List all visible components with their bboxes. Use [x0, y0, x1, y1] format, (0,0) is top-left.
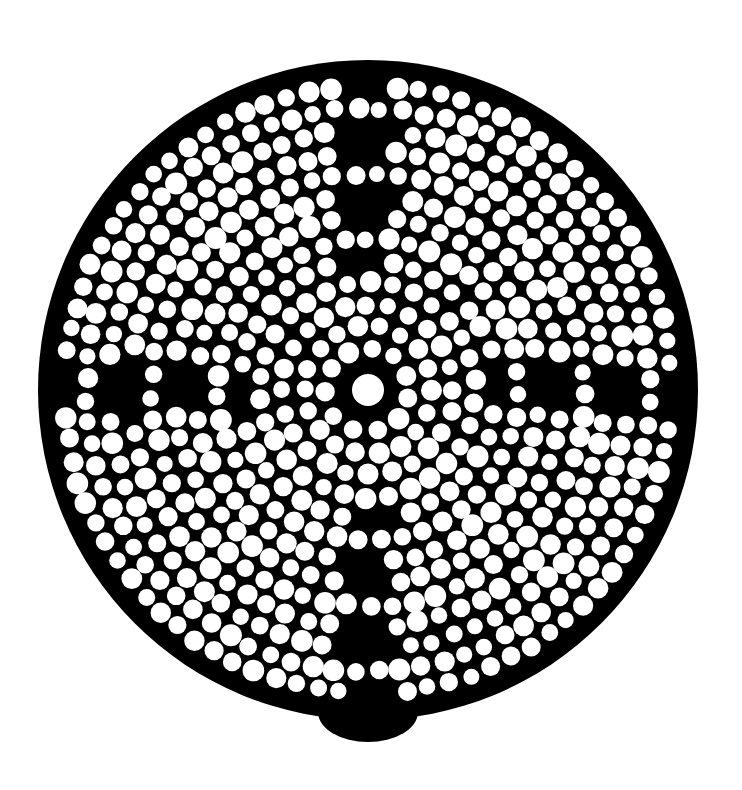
dot-circle-artwork [0, 0, 742, 790]
